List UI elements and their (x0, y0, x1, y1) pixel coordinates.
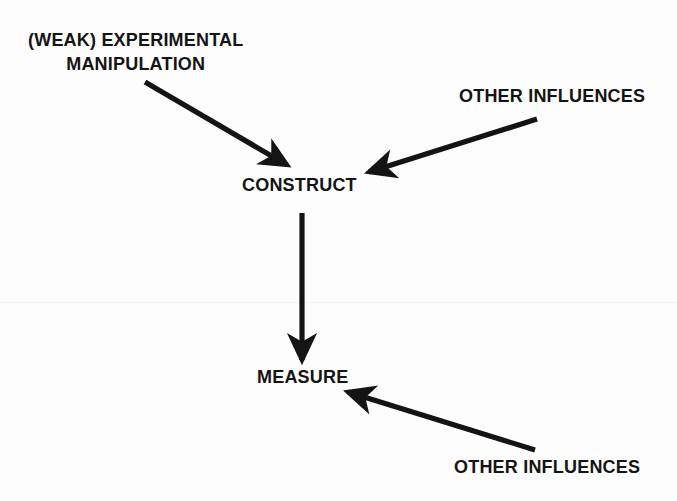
node-label-construct: CONSTRUCT (242, 174, 357, 197)
node-label-other-influences-bottom: OTHER INFLUENCES (454, 456, 640, 479)
node-label-manipulation-line2: MANIPULATION (66, 54, 205, 74)
diagram-canvas: (WEAK) EXPERIMENTALMANIPULATION OTHER IN… (0, 0, 677, 501)
node-label-manipulation: (WEAK) EXPERIMENTALMANIPULATION (28, 28, 243, 76)
arrow-other-influences-top-to-construct (369, 119, 537, 172)
node-label-manipulation-line1: (WEAK) EXPERIMENTAL (28, 30, 243, 50)
arrow-other-influences-bottom-to-measure (348, 392, 535, 450)
node-label-other-influences-top: OTHER INFLUENCES (459, 85, 645, 108)
arrow-manipulation-to-construct (145, 82, 287, 165)
node-label-measure: MEASURE (257, 366, 348, 389)
